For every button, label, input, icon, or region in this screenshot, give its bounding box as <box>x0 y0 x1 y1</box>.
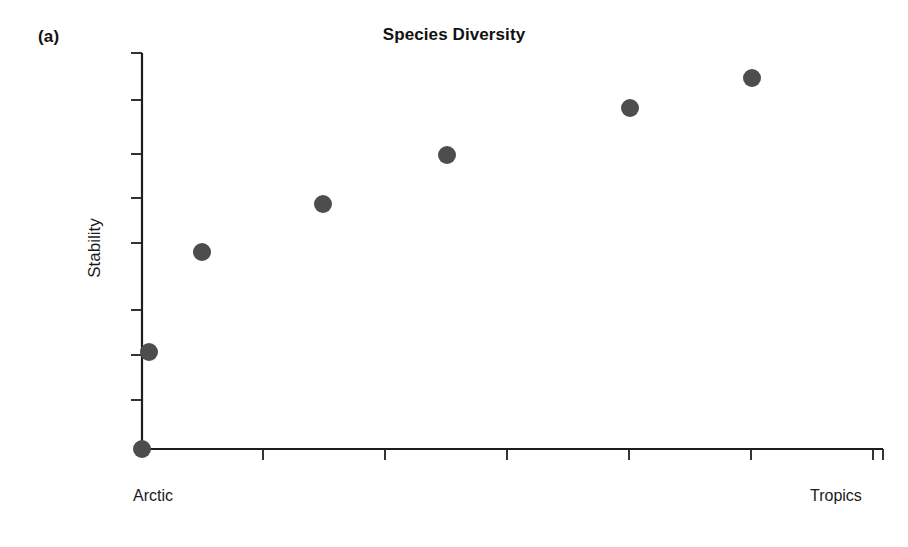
figure-panel: (a) Species Diversity Stability Arctic T… <box>0 0 908 547</box>
plot-axes <box>142 53 883 449</box>
y-axis-ticks <box>131 53 142 400</box>
x-axis-ticks <box>263 449 883 460</box>
data-point <box>621 99 639 117</box>
data-point <box>133 440 151 458</box>
data-point <box>193 243 211 261</box>
x-tick-label-tropics: Tropics <box>810 487 862 505</box>
data-point-markers <box>133 69 761 458</box>
data-point <box>743 69 761 87</box>
data-point <box>140 343 158 361</box>
data-point <box>314 195 332 213</box>
x-tick-label-arctic: Arctic <box>133 487 173 505</box>
scatter-plot-canvas <box>0 0 908 547</box>
data-point <box>438 146 456 164</box>
